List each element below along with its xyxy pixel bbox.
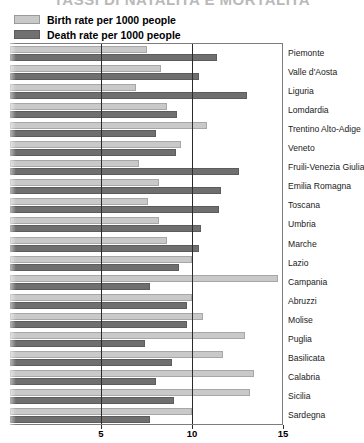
bar-group [10,370,282,389]
bar-birth [10,46,147,53]
category-label: Emilia Romagna [288,181,351,191]
bar-group [10,294,282,313]
bar-birth [10,389,250,396]
bar-birth [10,313,203,320]
bar-death [10,245,199,252]
bar-group [10,103,282,122]
bar-death [10,302,187,309]
bar-group [10,389,282,408]
category-label: Toscana [288,200,320,210]
bar-birth [10,237,167,244]
bar-group [10,160,282,179]
bar-group [10,179,282,198]
legend-item-death: Death rate per 1000 people [14,28,181,41]
bar-birth [10,122,207,129]
bar-birth [10,103,167,110]
bar-death [10,92,247,99]
bar-group [10,84,282,103]
bar-death [10,359,172,366]
bar-death [10,130,156,137]
bar-group [10,122,282,141]
bar-group [10,313,282,332]
bar-birth [10,275,278,282]
bar-birth [10,351,223,358]
category-labels: PiemonteValle d'AostaLiguriaLomdardiaTre… [288,43,364,425]
bar-death [10,149,176,156]
bar-birth [10,370,254,377]
bar-rows [10,44,282,424]
chart-legend: Birth rate per 1000 people Death rate pe… [14,13,181,43]
bar-birth [10,84,136,91]
legend-swatch-death-icon [14,30,40,39]
category-label: Lazio [288,258,309,268]
bar-group [10,46,282,65]
bar-death [10,283,150,290]
bar-death [10,378,156,385]
bar-group [10,237,282,256]
bar-death [10,73,199,80]
category-label: Umbria [288,219,316,229]
bar-death [10,54,217,61]
category-label: Sicilia [288,391,310,401]
bar-birth [10,198,148,205]
bar-group [10,141,282,160]
bar-group [10,275,282,294]
category-label: Piemonte [288,48,324,58]
category-label: Marche [288,239,317,249]
category-label: Sardegna [288,410,325,420]
category-label: Basilicata [288,353,325,363]
category-label: Campania [288,277,327,287]
category-label: Puglia [288,334,312,344]
bar-birth [10,179,159,186]
bar-death [10,187,221,194]
bar-group [10,408,282,427]
tick-label: 10 [187,428,198,439]
bar-birth [10,65,161,72]
bar-death [10,340,145,347]
bar-birth [10,160,139,167]
category-label: Valle d'Aosta [288,67,337,77]
bar-death [10,264,179,271]
legend-label-birth: Birth rate per 1000 people [47,14,176,26]
category-label: Trentino Alto-Adige [288,124,361,134]
bar-group [10,332,282,351]
bar-group [10,217,282,236]
legend-item-birth: Birth rate per 1000 people [14,13,181,26]
chart-title: TASSI DI NATALITA E MORTALITA [0,0,364,8]
category-label: Molise [288,315,313,325]
bar-death [10,397,174,404]
category-label: Calabria [288,372,320,382]
bar-death [10,225,201,232]
bar-group [10,65,282,84]
bar-death [10,206,219,213]
category-label: Liguria [288,86,314,96]
tick-label: 15 [278,428,289,439]
legend-label-death: Death rate per 1000 people [47,29,181,41]
plot-area [10,43,283,425]
category-label: Fruili-Venezia Giulia [288,162,364,172]
gridline-5 [101,44,102,424]
chart-page: TASSI DI NATALITA E MORTALITA Birth rate… [0,0,364,443]
tick-label: 5 [98,428,103,439]
bar-birth [10,141,181,148]
bar-group [10,351,282,370]
bar-birth [10,332,245,339]
bar-group [10,256,282,275]
category-label: Lomdardia [288,105,329,115]
bar-birth [10,217,159,224]
bar-death [10,168,239,175]
bar-death [10,111,177,118]
bar-group [10,198,282,217]
bar-death [10,321,187,328]
gridline-10 [192,44,193,424]
legend-swatch-birth-icon [14,15,40,24]
bar-death [10,416,150,423]
category-label: Veneto [288,143,315,153]
category-label: Abruzzi [288,296,317,306]
